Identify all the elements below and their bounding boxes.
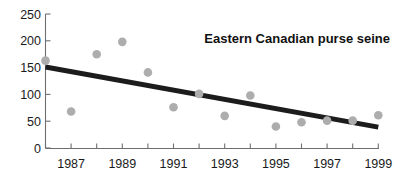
x-tick-label: 1997 xyxy=(313,157,341,171)
data-point xyxy=(323,116,332,125)
data-point xyxy=(348,116,357,125)
x-axis-tick-labels: 1987 1989 1991 1993 1995 1997 1999 xyxy=(57,157,392,171)
y-tick-label: 250 xyxy=(20,8,41,22)
data-point xyxy=(374,111,383,120)
data-point xyxy=(195,90,204,99)
x-tick-label: 1999 xyxy=(364,157,392,171)
data-point xyxy=(169,103,178,112)
data-point xyxy=(92,50,101,59)
y-tick-label: 0 xyxy=(34,142,41,156)
data-point xyxy=(246,91,255,100)
chart-figure: 0 50 100 150 200 250 1987 19 xyxy=(0,0,404,191)
data-point xyxy=(220,112,229,121)
x-tick-label: 1993 xyxy=(211,157,239,171)
x-axis-ticks xyxy=(46,144,379,149)
y-tick-label: 100 xyxy=(20,88,41,102)
x-tick-label: 1991 xyxy=(160,157,188,171)
data-point xyxy=(297,118,306,127)
y-tick-label: 200 xyxy=(20,34,41,48)
y-axis-tick-labels: 0 50 100 150 200 250 xyxy=(20,8,41,156)
chart-title: Eastern Canadian purse seine xyxy=(204,31,390,46)
x-tick-label: 1989 xyxy=(108,157,136,171)
y-tick-label: 150 xyxy=(20,61,41,75)
y-tick-label: 50 xyxy=(27,115,41,129)
data-point xyxy=(272,122,281,131)
data-point xyxy=(144,68,153,77)
y-axis-ticks xyxy=(46,14,51,148)
x-tick-label: 1987 xyxy=(57,157,85,171)
data-point xyxy=(67,107,76,116)
scatter-plot: 0 50 100 150 200 250 1987 19 xyxy=(0,0,404,191)
x-tick-label: 1995 xyxy=(262,157,290,171)
data-point xyxy=(118,38,127,47)
data-point xyxy=(41,56,50,65)
